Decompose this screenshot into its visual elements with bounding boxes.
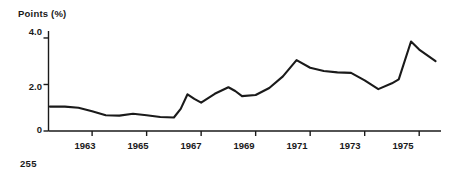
x-tick-label-1975: 1975 bbox=[379, 140, 427, 151]
y-axis-ticks bbox=[44, 38, 49, 131]
y-axis-title: Points (%) bbox=[18, 8, 66, 19]
x-tick-label-1965: 1965 bbox=[114, 140, 162, 151]
x-tick-label-1973: 1973 bbox=[326, 140, 374, 151]
data-line-series-0 bbox=[50, 41, 436, 117]
plot-area bbox=[0, 0, 452, 180]
y-tick-label-0: 0 bbox=[6, 124, 42, 135]
x-tick-label-1971: 1971 bbox=[273, 140, 321, 151]
y-tick-label-4: 4.0 bbox=[6, 26, 42, 37]
chart-figure: Points (%) 4.0 2.0 0 1963 1965 1967 1969… bbox=[0, 0, 452, 180]
x-axis-ticks bbox=[92, 131, 419, 136]
page-number: 255 bbox=[20, 158, 37, 169]
x-tick-label-1969: 1969 bbox=[220, 140, 268, 151]
x-tick-label-1967: 1967 bbox=[167, 140, 215, 151]
x-tick-label-1963: 1963 bbox=[61, 140, 109, 151]
y-tick-label-2: 2.0 bbox=[6, 81, 42, 92]
